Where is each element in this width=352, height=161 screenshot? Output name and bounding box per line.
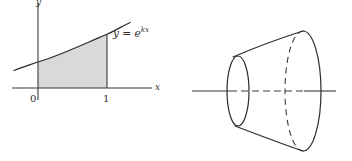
upper-slant-edge: [233, 31, 303, 57]
x-tick-label-1: 1: [103, 94, 109, 104]
x-axis-label: x: [155, 83, 160, 92]
curve-equation-equals: =: [119, 27, 134, 39]
x-tick-label-0: 0: [30, 94, 36, 104]
curve-equation-label: y = ekx: [113, 26, 149, 38]
lower-slant-edge: [235, 126, 303, 151]
graph-panel: y x 0 1 y = ekx: [0, 0, 176, 161]
solid-svg: [176, 0, 352, 161]
shaded-region: [38, 34, 107, 88]
graph-svg: [0, 0, 176, 161]
y-axis-label: y: [36, 0, 41, 7]
curve-equation-exponent: kx: [141, 25, 149, 34]
figure-root: y x 0 1 y = ekx: [0, 0, 352, 161]
solid-panel: [176, 0, 352, 161]
